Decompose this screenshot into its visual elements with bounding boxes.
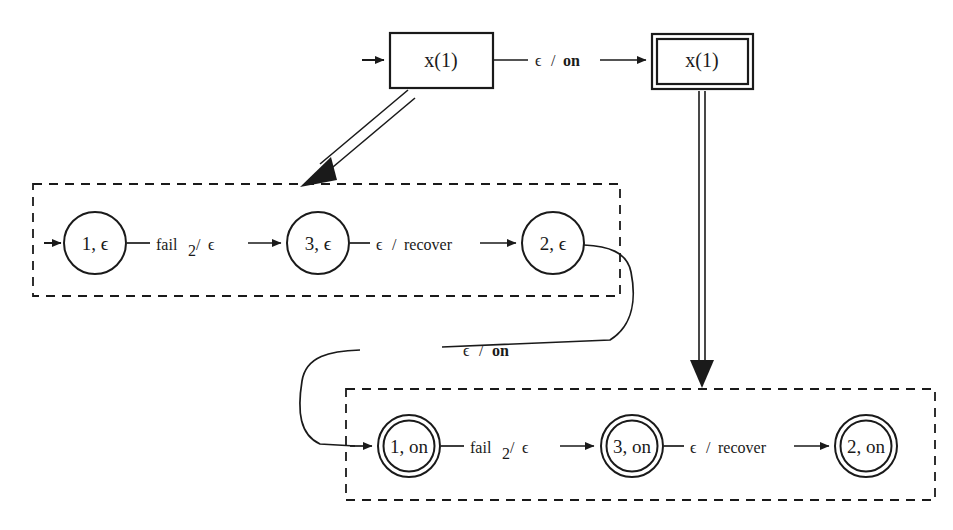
edge-3eps-2eps-separator: / <box>392 236 397 253</box>
state-1-eps-label: 1, ϵ <box>82 233 109 254</box>
edge-x1-to-x1-label: ϵ / on <box>535 52 580 69</box>
state-1-on-label: 1, on <box>390 436 429 457</box>
edge-1eps-3eps-input-subscript: 2 <box>188 242 196 259</box>
refinement-arrow-right <box>690 91 714 388</box>
edge-2eps-to-1on-separator: / <box>479 342 484 359</box>
edge-1eps-3eps-output: ϵ <box>208 236 215 253</box>
diagram-canvas: x(1) --> <box>0 0 953 530</box>
edge-2eps-to-1on-input: ϵ <box>463 342 470 359</box>
edge-3eps-2eps-output: recover <box>404 236 453 253</box>
state-3-on-label: 3, on <box>613 436 652 457</box>
edge-1eps-3eps-separator: / <box>196 236 201 253</box>
state-2-on-label: 2, on <box>847 436 886 457</box>
edge-1on-3on-input: fail <box>470 439 492 456</box>
edge-1on-3on-label: fail 2 / ϵ <box>470 439 529 462</box>
edge-2eps-to-1on-output: on <box>492 342 509 359</box>
state-machine-diagram: x(1) --> <box>0 0 953 530</box>
edge-1eps-3eps-input: fail <box>156 236 178 253</box>
edge-x1-to-x1-separator: / <box>551 52 556 69</box>
edge-1on-3on-separator: / <box>510 439 515 456</box>
edge-3on-2on-input: ϵ <box>690 439 697 456</box>
edge-3eps-2eps-label: ϵ / recover <box>376 236 453 253</box>
edge-3on-2on-output: recover <box>718 439 767 456</box>
edge-3on-2on-separator: / <box>706 439 711 456</box>
edge-1on-3on-output: ϵ <box>522 439 529 456</box>
box-x1-left-label: x(1) <box>424 49 457 72</box>
refinement-arrow-left <box>300 90 415 187</box>
edge-x1-to-x1-output: on <box>563 52 580 69</box>
edge-x1-to-x1-input: ϵ <box>535 52 542 69</box>
edge-1eps-3eps-label: fail 2 / ϵ <box>156 236 215 259</box>
edge-3on-2on-label: ϵ / recover <box>690 439 767 456</box>
state-2-eps-label: 2, ϵ <box>540 233 567 254</box>
edge-3eps-2eps-input: ϵ <box>376 236 383 253</box>
box-x1-right-label: x(1) <box>685 49 718 72</box>
edge-1on-3on-input-subscript: 2 <box>502 445 510 462</box>
state-3-eps-label: 3, ϵ <box>305 233 332 254</box>
